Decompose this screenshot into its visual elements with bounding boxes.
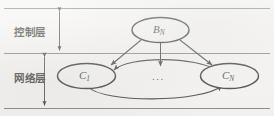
figure-canvas xyxy=(0,0,274,116)
layer-label-network: 网络层 xyxy=(14,70,46,85)
layer-label-control: 控制层 xyxy=(14,24,46,39)
node-label-cn: CN xyxy=(222,69,234,81)
ellipsis-label: ... xyxy=(152,70,165,82)
layered-architecture-figure: 控制层 网络层 BN C1 CN ... xyxy=(0,0,274,116)
edge-cn-to-c1-upper xyxy=(114,60,218,71)
node-label-c1-sub: 1 xyxy=(86,74,90,83)
node-label-c1: C1 xyxy=(79,69,90,81)
edge-c1-to-cn-lower xyxy=(88,86,222,99)
node-label-bn-sub: N xyxy=(160,28,165,37)
node-label-bn: BN xyxy=(153,23,165,35)
node-label-cn-sub: N xyxy=(229,74,234,83)
node-label-bn-base: B xyxy=(153,23,160,35)
